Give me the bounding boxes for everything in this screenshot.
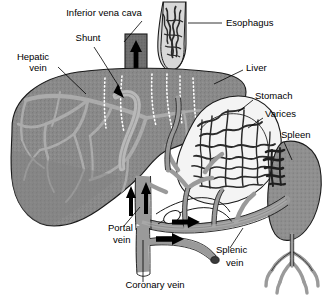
label-inferior-vena-cava: Inferior vena cava (66, 7, 142, 18)
coronary-vein-terminal (211, 257, 219, 264)
label-hepatic-vein-line2: vein (29, 62, 46, 73)
label-splenic-vein-line1: Splenic (216, 244, 247, 255)
label-liver: Liver (246, 62, 267, 73)
label-spleen: Spleen (281, 129, 311, 140)
label-portal-vein-line2: vein (113, 234, 130, 245)
anatomy-illustration: Inferior vena cava Shunt Hepatic vein Es… (0, 0, 331, 296)
label-coronary-vein: Coronary vein (125, 279, 184, 290)
label-shunt: Shunt (76, 32, 101, 43)
label-splenic-vein-line2: vein (226, 257, 243, 268)
portal-hypertension-diagram: Inferior vena cava Shunt Hepatic vein Es… (0, 0, 331, 296)
label-esophagus: Esophagus (226, 17, 274, 28)
label-portal-vein-line1: Portal (108, 222, 133, 233)
label-stomach: Stomach (255, 90, 293, 101)
label-varices: Varices (265, 108, 296, 119)
label-hepatic-vein-line1: Hepatic (17, 51, 49, 62)
